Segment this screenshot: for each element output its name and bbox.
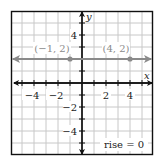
rise-annotation: rise = 0 bbox=[104, 139, 144, 150]
point-label-4-2: (4, 2) bbox=[103, 43, 130, 54]
x-axis-label: x bbox=[144, 70, 150, 81]
x-tick-neg2: −2 bbox=[49, 90, 64, 101]
coordinate-plane-chart: (−1, 2) (4, 2) −4 −2 2 4 4 −2 −4 y x ris… bbox=[0, 0, 160, 164]
y-tick-neg2: −2 bbox=[62, 102, 77, 113]
point-4-2 bbox=[127, 56, 132, 61]
x-tick-2: 2 bbox=[103, 90, 109, 101]
x-tick-4: 4 bbox=[127, 90, 133, 101]
chart-svg: (−1, 2) (4, 2) −4 −2 2 4 4 −2 −4 y x ris… bbox=[0, 0, 160, 164]
x-tick-neg4: −4 bbox=[25, 90, 40, 101]
y-axis-label: y bbox=[85, 11, 92, 22]
y-tick-neg4: −4 bbox=[62, 126, 77, 137]
y-tick-4: 4 bbox=[71, 30, 77, 41]
point-neg1-2 bbox=[67, 56, 72, 61]
point-label-neg1-2: (−1, 2) bbox=[34, 43, 69, 54]
